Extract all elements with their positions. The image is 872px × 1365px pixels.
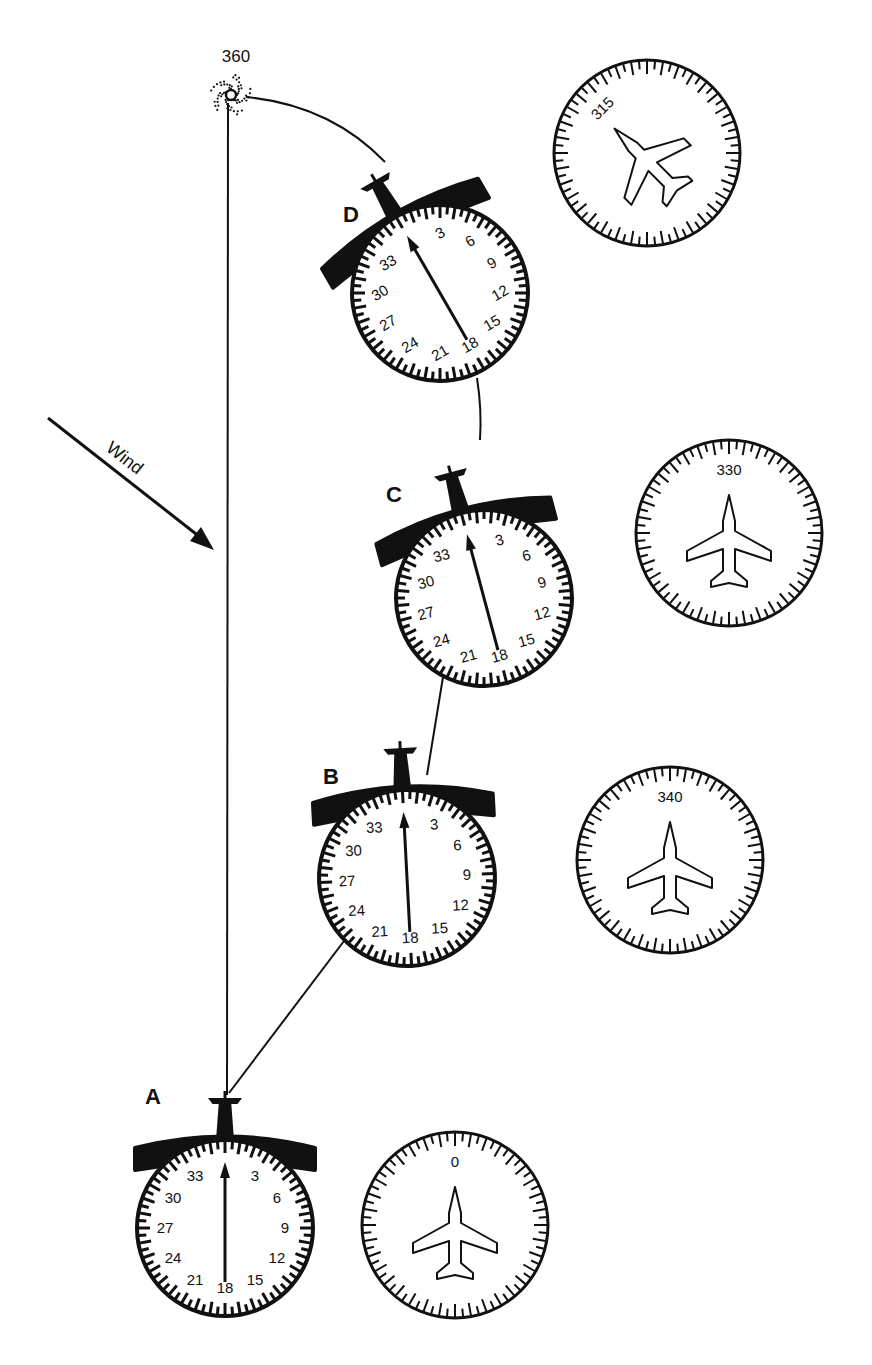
adf-scale-label: 27 [338,872,356,890]
adf-scale-label: 30 [165,1189,182,1206]
position-label-b: B [323,764,339,789]
heading-indicator-d: 315 [554,60,740,246]
heading-value: 330 [716,461,741,478]
track-segment-a-b [229,941,344,1093]
station-label: 360 [222,47,250,66]
heading-indicator-a: 0 [362,1132,548,1318]
adf-scale-label: 9 [281,1219,289,1236]
diagram-canvas: 360 Wind A3691215182124273033B3691215182… [0,0,872,1365]
adf-indicators: A3691215182124273033B3691215182124273033… [135,129,594,1316]
adf-scale-label: 21 [187,1271,204,1288]
adf-scale-label: 15 [431,919,449,937]
adf-scale-label: 21 [371,922,389,940]
adf-scale-label: 12 [269,1249,286,1266]
adf-scale-label: 33 [366,818,384,836]
position-label-a: A [145,1084,161,1109]
adf-scale-label: 9 [462,866,471,883]
adf-indicator-d: D3691215182124273033 [294,129,562,414]
direct-course-line [227,103,228,1095]
wind-arrow-icon [48,418,214,550]
ndb-station [210,74,251,115]
heading-value: 0 [451,1153,459,1170]
adf-scale-label: 30 [345,841,363,859]
wind-label: Wind [103,437,148,478]
adf-scale-label: 24 [348,901,366,919]
ndb-station-icon [210,74,251,115]
position-label-c: C [386,482,402,507]
adf-scale-label: 33 [187,1167,204,1184]
track-segment-d-station [246,97,385,162]
adf-scale-label: 15 [247,1271,264,1288]
adf-scale-label: 6 [273,1189,281,1206]
adf-scale-label: 3 [251,1167,259,1184]
heading-value: 340 [657,788,682,805]
track-segment-c-d [477,378,481,440]
adf-scale-label: 12 [452,896,470,914]
homing-diagram: 360 Wind A3691215182124273033B3691215182… [0,0,872,1365]
adf-indicator-a: A3691215182124273033 [135,1084,315,1316]
heading-indicator-c: 330 [636,440,822,626]
wind-indicator: Wind [48,418,214,550]
adf-scale-label: 6 [453,836,462,853]
adf-scale-label: 24 [165,1249,182,1266]
heading-indicator-b: 340 [577,767,763,953]
adf-scale-label: 27 [157,1219,174,1236]
position-label-d: D [343,202,359,227]
track-segment-b-c [427,677,443,775]
adf-indicator-b: B3691215182124273033 [310,736,502,970]
adf-indicator-c: C3691215182124273033 [362,442,594,706]
adf-scale-label: 3 [430,815,439,832]
